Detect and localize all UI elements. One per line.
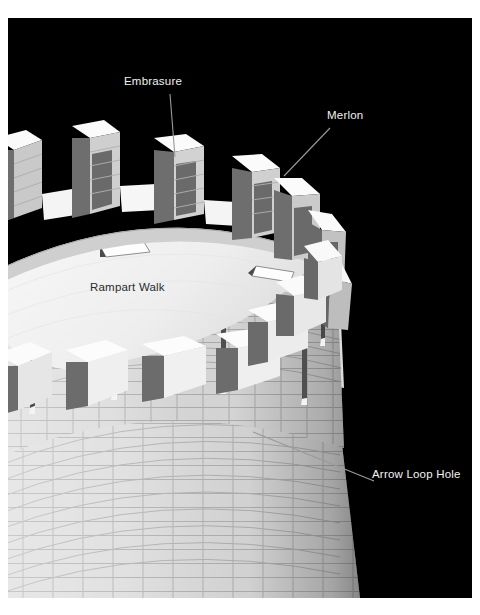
merlon	[8, 130, 42, 224]
tower-illustration	[8, 18, 472, 598]
diagram-page: Embrasure Merlon Rampart Walk Arrow Loop…	[0, 0, 480, 615]
merlon	[232, 154, 280, 240]
merlon	[72, 120, 120, 218]
merlon	[154, 134, 204, 224]
leader-merlon	[284, 128, 330, 176]
diagram-canvas: Embrasure Merlon Rampart Walk Arrow Loop…	[8, 18, 472, 598]
